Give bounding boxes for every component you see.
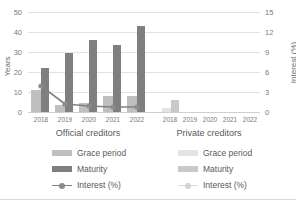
x-tick-official-2020: 2020 [78, 116, 100, 123]
x-tick-private-2022: 2022 [239, 116, 261, 123]
legend-label: Interest (%) [203, 180, 247, 190]
legend-swatch-maturity-icon [52, 166, 72, 172]
y-axis-right-tick: 0 [265, 108, 281, 117]
x-tick-private-2021: 2021 [219, 116, 241, 123]
y-axis-left-tick: 10 [8, 88, 22, 97]
legend-item-private-grace[interactable]: Grace period [178, 148, 252, 158]
bar-grace-2022-official [127, 96, 137, 112]
x-tick-official-2018: 2018 [30, 116, 52, 123]
y-axis-right-tick: 9 [265, 48, 281, 57]
bar-grace-2018-official [31, 90, 41, 112]
x-tick-official-2019: 2019 [54, 116, 76, 123]
legend-item-official-interest[interactable]: Interest (%) [52, 180, 121, 190]
plot-area-private [158, 12, 260, 112]
legend-line-interest-icon [178, 182, 198, 189]
legend-item-private-interest[interactable]: Interest (%) [178, 180, 247, 190]
x-tick-private-2020: 2020 [199, 116, 221, 123]
y-axis-left-tick: 0 [8, 108, 22, 117]
bar-grace-2018-private [162, 108, 171, 112]
legend-label: Grace period [77, 148, 126, 158]
gridline-0 [28, 112, 260, 113]
x-tick-private-2018: 2018 [159, 116, 181, 123]
legend-swatch-maturity-icon [178, 166, 198, 172]
bar-grace-2021-official [103, 96, 113, 112]
y-axis-right-tick: 6 [265, 68, 281, 77]
bar-maturity-2018-private [171, 100, 179, 112]
bar-maturity-2022-official [137, 26, 145, 112]
legend-item-official-maturity[interactable]: Maturity [52, 164, 107, 174]
bar-maturity-2021-official [113, 45, 121, 112]
x-tick-official-2022: 2022 [126, 116, 148, 123]
plot-area-official [28, 12, 148, 112]
legend-label: Interest (%) [77, 180, 121, 190]
bar-maturity-2020-official [89, 40, 97, 112]
y-axis-right-tick: 15 [265, 8, 281, 17]
bar-maturity-2018-official [41, 68, 49, 112]
legend-label: Maturity [77, 164, 107, 174]
y-axis-right-tick: 12 [265, 28, 281, 37]
legend-line-interest-icon [52, 182, 72, 189]
y-axis-left-tick: 50 [8, 8, 22, 17]
chart-container: 50 40 30 20 10 0 15 12 9 6 3 0 Years Int… [0, 0, 296, 200]
y-axis-right-title: Interest (%) [289, 38, 297, 88]
group-title-private: Private creditors [158, 128, 260, 138]
group-title-official: Official creditors [28, 128, 148, 138]
bar-maturity-2019-official [65, 53, 73, 112]
bar-grace-2019-official [55, 105, 65, 112]
legend-swatch-grace-icon [52, 150, 72, 156]
y-axis-left-title: Years [3, 47, 12, 87]
legend-label: Maturity [203, 164, 233, 174]
legend-swatch-grace-icon [178, 150, 198, 156]
legend-item-official-grace[interactable]: Grace period [52, 148, 126, 158]
legend-item-private-maturity[interactable]: Maturity [178, 164, 233, 174]
x-tick-private-2019: 2019 [179, 116, 201, 123]
y-axis-right-tick: 3 [265, 88, 281, 97]
legend-label: Grace period [203, 148, 252, 158]
bar-grace-2020-official [79, 103, 89, 112]
y-axis-left-tick: 40 [8, 28, 22, 37]
bottom-divider [0, 199, 296, 200]
x-tick-official-2021: 2021 [102, 116, 124, 123]
